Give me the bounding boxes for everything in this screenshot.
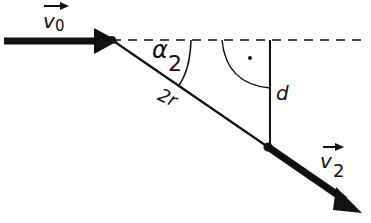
scattering-diagram: v 0 α 2 2r d v 2 (0, 0, 371, 223)
v0-label: v 0 (43, 2, 69, 35)
alpha-symbol: α (152, 36, 168, 64)
d-label: d (276, 81, 289, 105)
v0-subscript: 0 (55, 17, 65, 35)
alpha-subscript: 2 (168, 51, 182, 76)
diagram-canvas: v 0 α 2 2r d v 2 (0, 0, 371, 223)
two-r-label: 2r (155, 84, 182, 112)
right-angle-arc (222, 40, 270, 88)
v2-label: v 2 (320, 143, 344, 181)
exit-point (264, 143, 273, 152)
outgoing-arrowhead (333, 187, 362, 213)
v2-symbol: v (320, 149, 333, 173)
v2-subscript: 2 (333, 160, 344, 181)
right-angle-dot (248, 56, 252, 60)
